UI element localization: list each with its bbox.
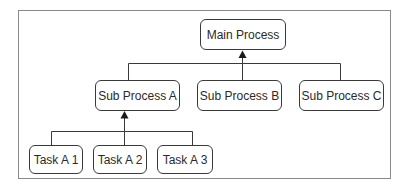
node-main-process: Main Process	[200, 19, 286, 50]
arrow-head-sub-a	[121, 111, 129, 119]
node-sub-process-c: Sub Process C	[299, 80, 384, 111]
node-sub-process-b: Sub Process B	[197, 80, 282, 111]
node-task-a-2: Task A 2	[93, 145, 147, 174]
node-sub-process-a: Sub Process A	[95, 80, 180, 111]
node-task-a-1: Task A 1	[29, 145, 83, 174]
node-task-a-3: Task A 3	[157, 145, 213, 174]
arrow-head-main	[239, 51, 247, 59]
